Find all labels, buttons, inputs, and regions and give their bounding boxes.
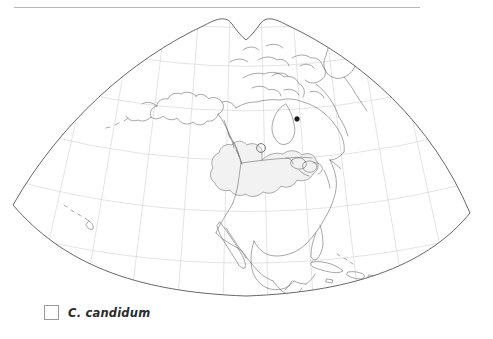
map-interior: [0, 0, 493, 339]
distribution-map: [0, 0, 493, 339]
legend-range-swatch: [44, 305, 59, 320]
legend-label-species: C. candidum: [68, 306, 150, 320]
figure-page: C. candidum: [0, 0, 493, 339]
map-legend: C. candidum: [44, 305, 150, 320]
filled-dot-marker: [295, 117, 300, 122]
